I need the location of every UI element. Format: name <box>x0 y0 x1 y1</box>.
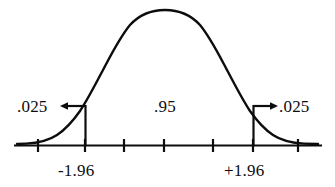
right-tail-probability-label: .025 <box>279 98 310 115</box>
lower-critical-value-label: -1.96 <box>58 162 94 179</box>
central-probability-label: .95 <box>154 98 176 115</box>
normal-distribution-figure: .025 .95 .025 -1.96 +1.96 <box>0 0 335 187</box>
upper-critical-value-label: +1.96 <box>224 162 264 179</box>
normal-curve-graphic <box>0 0 335 187</box>
left-tail-probability-label: .025 <box>17 98 48 115</box>
normal-density-curve <box>17 10 318 144</box>
right-tail-arrow-icon <box>253 102 278 109</box>
